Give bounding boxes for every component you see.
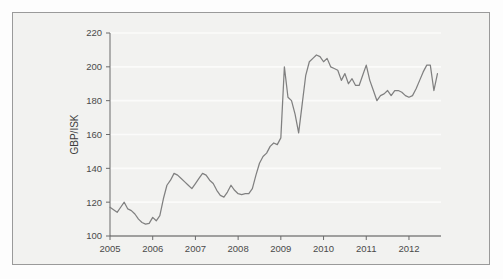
y-tick-label: 180	[86, 95, 102, 106]
y-tick-marks	[106, 33, 110, 236]
x-tick-label: 2005	[99, 243, 120, 254]
line-chart: 100120140160180200220 200520062007200820…	[0, 0, 503, 279]
x-tick-label: 2009	[270, 243, 291, 254]
y-axis-title: GBP/ISK	[69, 114, 80, 154]
y-tick-label: 200	[86, 61, 102, 72]
y-tick-label: 100	[86, 230, 102, 241]
x-tick-label: 2007	[185, 243, 206, 254]
x-tick-label: 2008	[228, 243, 249, 254]
y-tick-label: 160	[86, 129, 102, 140]
y-tick-label: 140	[86, 163, 102, 174]
gridlines	[110, 33, 441, 202]
x-tick-label: 2010	[313, 243, 334, 254]
x-tick-marks	[110, 236, 409, 240]
y-tick-label: 220	[86, 27, 102, 38]
x-tick-label: 2006	[142, 243, 163, 254]
x-tick-label: 2011	[356, 243, 376, 254]
x-tick-label: 2012	[398, 243, 419, 254]
y-tick-label: 120	[86, 197, 102, 208]
chart-figure: 100120140160180200220 200520062007200820…	[0, 0, 503, 279]
y-tick-labels: 100120140160180200220	[86, 27, 102, 241]
data-series-line	[110, 55, 437, 224]
x-tick-labels: 20052006200720082009201020112012	[99, 243, 419, 254]
